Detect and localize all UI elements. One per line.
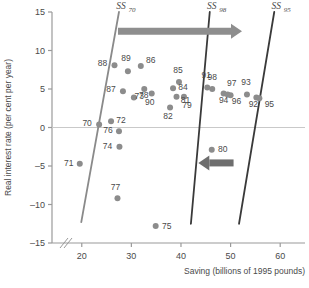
supply-curve-label-SS98: SS [207,1,217,11]
data-point-label-89: 89 [121,53,131,63]
data-point-82 [167,104,173,110]
y-tick-label: 5 [40,84,45,94]
data-point-74 [116,144,122,150]
data-point-98 [209,86,215,92]
y-tick-label: 0 [40,123,45,133]
data-point-label-92: 92 [249,99,259,109]
supply-curve-subscript-SS98: 98 [219,6,227,14]
leftward-shift-arrow-head [198,155,209,170]
supply-curve-SS98 [191,12,210,224]
supply-curve-SS95 [239,12,274,224]
data-point-label-80: 80 [218,144,228,154]
x-tick-label: 30 [126,251,136,261]
data-point-72 [108,118,114,124]
y-tick-label: –10 [30,200,45,210]
data-point-81 [174,94,180,100]
y-tick-label: 15 [35,7,45,17]
y-tick-label: –5 [35,161,45,171]
data-point-95 [256,95,262,101]
supply-curve-label-SS95: SS [271,1,281,11]
y-axis-title: Real interest rate (per cent per year) [3,59,13,196]
x-tick-label: 50 [226,251,236,261]
data-point-label-94: 94 [219,95,229,105]
data-point-label-84: 84 [178,82,188,92]
data-point-70 [96,121,102,127]
data-point-76 [116,128,122,134]
data-point-93 [244,91,250,97]
chart-figure: 151050–5–10–152030405060Saving (billions… [0,0,309,288]
data-point-label-82: 82 [163,111,173,121]
data-point-label-73: 73 [135,91,145,101]
data-point-label-95: 95 [265,99,275,109]
data-point-86 [138,63,144,69]
y-tick-label: 10 [35,46,45,56]
data-point-label-75: 75 [162,221,172,231]
data-point-label-85: 85 [173,65,183,75]
scatter-plot-canvas: 151050–5–10–152030405060Saving (billions… [0,0,309,288]
data-point-label-81: 81 [181,95,191,105]
data-point-label-70: 70 [82,118,92,128]
x-tick-label: 20 [77,251,87,261]
data-point-label-87: 87 [106,84,116,94]
data-point-89 [125,68,131,74]
data-point-label-98: 98 [207,72,217,82]
supply-curve-subscript-SS70: 70 [128,6,136,14]
x-tick-label: 60 [275,251,285,261]
rightward-shift-arrow-shaft [118,28,231,35]
leftward-shift-arrow-shaft [209,159,233,166]
data-point-80 [209,147,215,153]
data-point-77 [114,195,120,201]
data-point-label-93: 93 [241,77,251,87]
supply-curve-label-SS70: SS [116,1,126,11]
data-point-84 [170,85,176,91]
data-point-label-77: 77 [111,182,121,192]
data-point-label-71: 71 [64,158,74,168]
data-point-88 [112,62,118,68]
x-axis-title: Saving (billions of 1995 pounds) [184,266,305,276]
data-point-label-72: 72 [116,115,126,125]
data-point-87 [120,88,126,94]
data-point-71 [77,161,83,167]
data-point-75 [153,223,159,229]
data-point-label-88: 88 [98,58,108,68]
data-point-label-74: 74 [103,141,113,151]
y-tick-label: –15 [30,238,45,248]
supply-curve-subscript-SS95: 95 [284,6,292,14]
data-point-label-86: 86 [146,55,156,65]
data-point-label-97: 97 [227,78,237,88]
x-tick-label: 40 [176,251,186,261]
data-point-label-76: 76 [103,125,113,135]
data-point-label-96: 96 [232,96,242,106]
rightward-shift-arrow-head [231,24,242,39]
data-point-label-90: 90 [145,97,155,107]
